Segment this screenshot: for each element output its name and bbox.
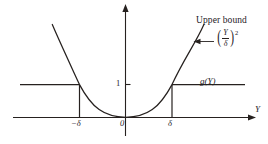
x-axis-variable-label: Y <box>255 105 260 114</box>
x-axis-tick-label-delta: δ <box>168 119 172 128</box>
upper-bound-curve <box>52 25 204 118</box>
x-axis-tick-label-negative-delta: −δ <box>71 119 81 128</box>
y-axis-arrowhead <box>122 4 128 12</box>
formula-numerator: Y <box>222 29 228 38</box>
y-axis-tick-label-one: 1 <box>116 79 120 88</box>
x-axis-arrowhead <box>248 114 256 120</box>
g-of-y-label: g(Y) <box>200 77 216 86</box>
formula-fraction: Y δ <box>222 29 228 48</box>
formula-exponent: 2 <box>235 29 238 36</box>
upper-bound-label: Upper bound <box>196 16 247 26</box>
formula-left-paren: ( <box>217 28 221 45</box>
formula-right-paren: ) <box>230 28 234 45</box>
upper-bound-formula: ( Y δ ) 2 <box>216 28 238 48</box>
figure-container: Upper bound ( Y δ ) 2 g(Y) 1 0 −δ δ Y <box>0 0 268 144</box>
origin-label: 0 <box>120 119 124 128</box>
formula-denominator: δ <box>223 39 229 48</box>
